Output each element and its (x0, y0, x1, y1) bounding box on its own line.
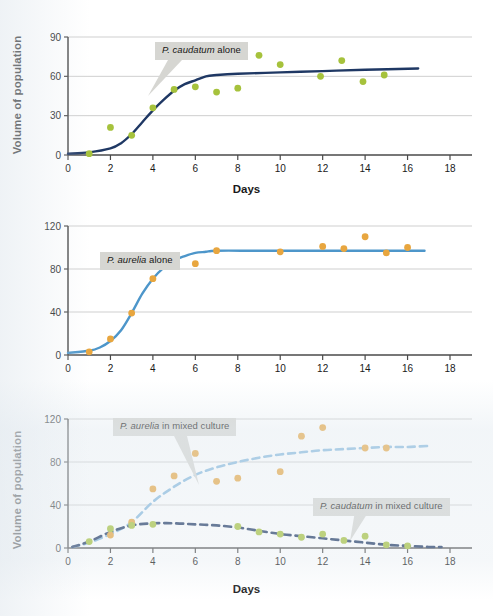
chart-panel-p-aurelia-alone: 04080120024681012141618 Volume of popula… (0, 205, 493, 400)
x-tick-label: 2 (108, 163, 114, 174)
annotation-suffix: alone (146, 254, 172, 265)
data-point (298, 433, 305, 440)
data-point (277, 248, 284, 255)
data-point (107, 335, 114, 342)
data-point (213, 478, 220, 485)
x-tick-label: 2 (108, 363, 114, 374)
data-point (383, 541, 390, 548)
y-tick-label: 0 (55, 350, 61, 361)
x-tick-label: 2 (108, 556, 114, 567)
data-point (319, 531, 326, 538)
y-tick-label: 0 (55, 150, 61, 161)
data-point (383, 249, 390, 256)
annotation-species-name: P. caudatum (320, 500, 373, 511)
data-point (86, 538, 93, 545)
data-point (298, 534, 305, 541)
y-tick-label: 120 (44, 414, 61, 425)
x-tick-label: 10 (275, 556, 287, 567)
data-point (107, 532, 114, 539)
data-point (338, 57, 345, 64)
x-tick-label: 18 (444, 363, 456, 374)
data-point (256, 52, 263, 59)
annotation-species-name: P. aurelia (107, 254, 146, 265)
x-tick-label: 10 (275, 363, 287, 374)
annotation-suffix: in mixed culture (373, 500, 443, 511)
data-point (213, 247, 220, 254)
data-point (149, 485, 156, 492)
y-tick-label: 90 (50, 32, 62, 43)
data-point (149, 104, 156, 111)
x-tick-label: 16 (402, 363, 414, 374)
y-tick-label: 30 (50, 110, 62, 121)
annotation-species-name: P. aurelia (120, 420, 159, 431)
annotation-p-aurelia-mixed: P. aurelia in mixed culture (113, 418, 236, 436)
x-axis-title-1: Days (0, 183, 493, 195)
x-tick-label: 16 (402, 556, 414, 567)
x-tick-label: 4 (150, 163, 156, 174)
data-point (171, 86, 178, 93)
data-point (277, 61, 284, 68)
data-point (86, 348, 93, 355)
data-point (404, 244, 411, 251)
series-line (72, 446, 429, 547)
y-tick-label: 40 (50, 307, 62, 318)
x-tick-label: 18 (444, 556, 456, 567)
x-tick-label: 8 (235, 363, 241, 374)
data-point (128, 132, 135, 139)
data-point (383, 445, 390, 452)
data-point (107, 124, 114, 131)
data-point (277, 531, 284, 538)
data-point (149, 275, 156, 282)
x-tick-label: 10 (275, 163, 287, 174)
data-point (128, 310, 135, 317)
data-point (234, 523, 241, 530)
y-tick-label: 120 (44, 221, 61, 232)
x-tick-label: 6 (193, 163, 199, 174)
data-point (213, 89, 220, 96)
data-point (234, 85, 241, 92)
x-tick-label: 14 (360, 556, 372, 567)
x-tick-label: 0 (65, 556, 71, 567)
data-point (381, 72, 388, 79)
y-tick-label: 60 (50, 71, 62, 82)
data-point (86, 150, 93, 157)
x-tick-label: 0 (65, 163, 71, 174)
y-tick-label: 80 (50, 457, 62, 468)
chart-root: 04080120024681012141618 (44, 221, 472, 375)
x-tick-label: 12 (317, 556, 329, 567)
data-point (404, 542, 411, 549)
annotation-p-aurelia-alone: P. aurelia alone (100, 252, 180, 270)
data-point (192, 83, 199, 90)
data-point (192, 450, 199, 457)
data-point (192, 260, 199, 267)
x-tick-label: 4 (150, 556, 156, 567)
x-tick-label: 6 (193, 556, 199, 567)
data-point (128, 522, 135, 529)
annotation-suffix: in mixed culture (159, 420, 229, 431)
y-axis-title-1: Volume of population (11, 25, 23, 165)
annotation-species-name: P. caudatum (162, 44, 215, 55)
data-point (107, 525, 114, 532)
y-tick-label: 0 (55, 543, 61, 554)
x-tick-label: 0 (65, 363, 71, 374)
data-point (234, 475, 241, 482)
data-point (256, 528, 263, 535)
x-tick-label: 14 (360, 163, 372, 174)
data-point (149, 521, 156, 528)
x-tick-label: 12 (317, 163, 329, 174)
x-tick-label: 18 (444, 163, 456, 174)
x-tick-label: 16 (402, 163, 414, 174)
chart-panel-p-caudatum-alone: 0306090024681012141618 Volume of populat… (0, 0, 493, 205)
plot-area-1: 0306090024681012141618 (0, 0, 493, 205)
annotation-suffix: alone (215, 44, 241, 55)
data-point (362, 233, 369, 240)
data-point (317, 73, 324, 80)
x-tick-label: 12 (317, 363, 329, 374)
data-point (171, 473, 178, 480)
x-tick-label: 6 (193, 363, 199, 374)
y-tick-label: 80 (50, 264, 62, 275)
chart-root: 04080120024681012141618 (44, 414, 472, 568)
annotation-p-caudatum-alone: P. caudatum alone (155, 42, 248, 60)
chart-root: 0306090024681012141618 (50, 32, 472, 175)
data-point (319, 243, 326, 250)
